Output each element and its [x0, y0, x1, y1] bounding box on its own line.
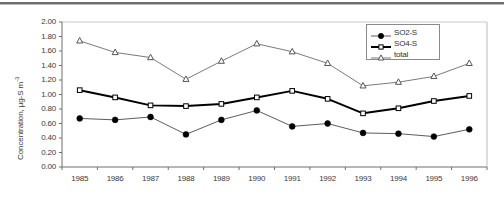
marker-open-square	[77, 88, 82, 93]
legend-item-label: SO4-S	[394, 39, 417, 48]
marker-open-square	[432, 99, 437, 104]
marker-open-square	[184, 104, 189, 109]
marker-filled-circle	[289, 124, 295, 130]
marker-filled-circle	[77, 116, 83, 122]
marker-filled-circle	[112, 117, 118, 123]
chart-figure: Concentration, µg-S m-3 2.001.801.601.40…	[0, 0, 504, 208]
marker-open-square	[396, 106, 401, 111]
legend-open-square-icon	[370, 38, 392, 48]
legend-item-label: total	[394, 50, 408, 59]
marker-open-square	[290, 89, 295, 94]
chart-legend: SO2-SSO4-Stotal	[366, 24, 440, 60]
legend-item: total	[370, 49, 436, 59]
marker-filled-circle	[325, 121, 331, 127]
marker-open-triangle	[466, 60, 472, 66]
marker-open-square	[254, 95, 259, 100]
marker-filled-circle	[431, 134, 437, 140]
marker-open-triangle	[77, 38, 83, 44]
series-so4-s	[77, 88, 471, 116]
legend-filled-circle-icon	[370, 27, 392, 37]
series-line	[80, 110, 470, 136]
marker-open-triangle	[254, 40, 260, 46]
marker-open-square	[325, 97, 330, 102]
marker-open-triangle	[378, 55, 384, 60]
legend-item: SO2-S	[370, 27, 436, 37]
series-so2-s	[77, 108, 472, 140]
marker-filled-circle	[466, 126, 472, 132]
marker-filled-circle	[148, 114, 154, 120]
marker-filled-circle	[254, 108, 260, 114]
marker-open-square	[361, 111, 366, 116]
marker-open-square	[113, 95, 118, 100]
legend-open-triangle-icon	[370, 49, 392, 59]
series-line	[80, 90, 470, 113]
marker-open-square	[148, 103, 153, 108]
marker-open-square	[219, 102, 224, 107]
marker-filled-circle	[183, 131, 189, 137]
marker-filled-circle	[360, 130, 366, 136]
marker-filled-circle	[396, 131, 402, 137]
legend-item-label: SO2-S	[394, 28, 417, 37]
marker-open-square	[467, 94, 472, 99]
legend-item: SO4-S	[370, 38, 436, 48]
marker-filled-circle	[218, 117, 224, 123]
